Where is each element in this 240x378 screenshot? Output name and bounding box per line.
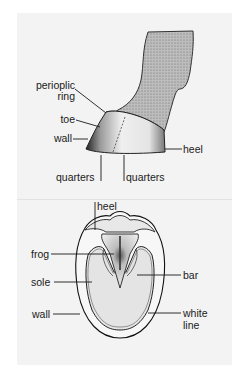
label-wall-side: wall (20, 133, 72, 144)
label-sole: sole (31, 277, 50, 288)
label-white-line-2: line (183, 320, 199, 331)
label-heel-side: heel (183, 144, 203, 155)
label-frog: frog (31, 249, 49, 260)
label-wall-bottom: wall (32, 309, 50, 320)
label-heel-bottom: heel (97, 201, 117, 212)
label-toe: toe (20, 114, 75, 125)
label-bar: bar (183, 270, 198, 281)
label-perioplic-ring-line2: ring (20, 91, 75, 102)
label-quarters-left: quarters (56, 172, 95, 183)
hoof-side-illustration (0, 0, 240, 378)
label-white-line-1: white (183, 308, 208, 319)
label-quarters-right: quarters (126, 172, 165, 183)
